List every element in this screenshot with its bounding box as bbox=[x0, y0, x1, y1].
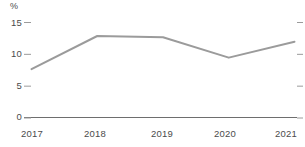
plot-area bbox=[0, 0, 305, 147]
data-series-line bbox=[32, 36, 295, 69]
y-axis-tick-marks bbox=[24, 23, 31, 119]
right-axis-tick-marks bbox=[297, 23, 303, 119]
line-chart: % 15 10 5 0 2017 2018 2019 2020 2021 bbox=[0, 0, 305, 147]
